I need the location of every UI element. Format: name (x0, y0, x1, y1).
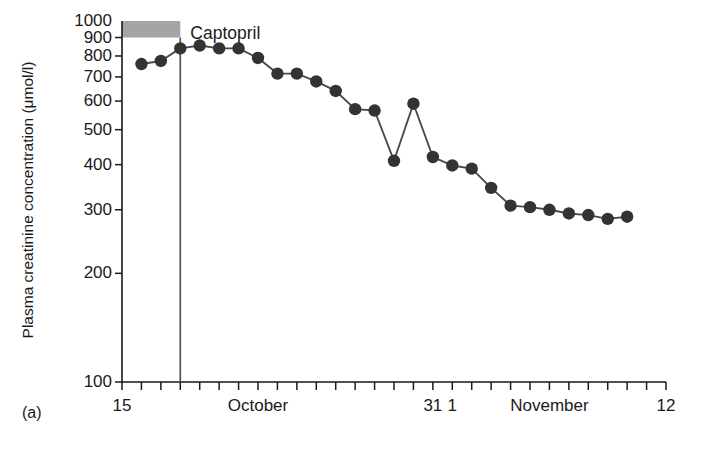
captopril-annotation-label: Captopril (190, 23, 260, 44)
data-point-marker (368, 104, 380, 116)
data-point-marker (155, 55, 167, 67)
data-point-marker (349, 103, 361, 115)
data-point-marker (563, 207, 575, 219)
data-point-marker (330, 85, 342, 97)
treatment-period-bar (122, 21, 180, 38)
y-tick-label: 800 (54, 46, 112, 66)
y-tick-label: 400 (54, 155, 112, 175)
chart-figure: Plasma creatinine concentration (μmol/l)… (0, 0, 705, 452)
x-tick-label: 12 (657, 396, 676, 416)
data-point-marker (582, 209, 594, 221)
data-point-marker (602, 213, 614, 225)
data-point-marker (174, 42, 186, 54)
data-point-marker (524, 201, 536, 213)
x-tick-label: November (510, 396, 588, 416)
data-point-marker (271, 67, 283, 79)
x-tick-label: 31 (423, 396, 442, 416)
y-tick-label: 300 (54, 200, 112, 220)
data-point-marker (485, 182, 497, 194)
x-tick-label: October (228, 396, 288, 416)
x-tick-label: 15 (113, 396, 132, 416)
data-point-marker (621, 211, 633, 223)
y-tick-label: 700 (54, 67, 112, 87)
data-point-marker (466, 162, 478, 174)
y-tick-label: 200 (54, 263, 112, 283)
y-tick-label: 100 (54, 372, 112, 392)
data-point-marker (310, 75, 322, 87)
series-line (141, 46, 627, 219)
data-point-marker (291, 67, 303, 79)
data-point-marker (446, 159, 458, 171)
data-point-marker (407, 98, 419, 110)
data-point-marker (135, 58, 147, 70)
x-tick-label: 1 (448, 396, 457, 416)
data-point-marker (504, 199, 516, 211)
y-tick-label: 500 (54, 120, 112, 140)
y-tick-label: 600 (54, 91, 112, 111)
y-tick-label: 1000 (54, 11, 112, 31)
data-point-marker (427, 151, 439, 163)
data-point-marker (543, 204, 555, 216)
data-point-marker (388, 155, 400, 167)
data-point-marker (252, 52, 264, 64)
axis-lines (122, 21, 666, 382)
